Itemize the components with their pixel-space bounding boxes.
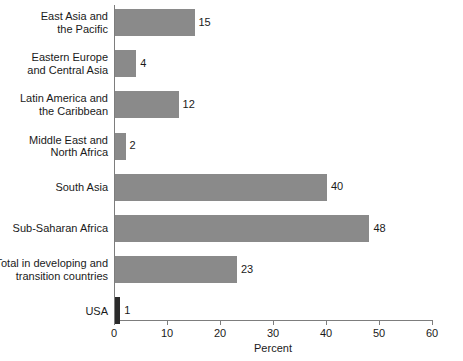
bar-value-label: 12: [183, 98, 195, 110]
x-axis-tick-label: 20: [200, 327, 240, 339]
category-label: East Asia and the Pacific: [0, 10, 108, 35]
x-axis-tick-label: 30: [253, 327, 293, 339]
bar: [115, 297, 120, 324]
bar-value-label: 40: [331, 180, 343, 192]
x-axis-tick: [273, 320, 274, 325]
bar-value-label: 4: [140, 57, 146, 69]
bar: [115, 215, 369, 242]
x-axis-tick: [167, 320, 168, 325]
x-axis-title: Percent: [114, 342, 432, 354]
bar-value-label: 2: [130, 139, 136, 151]
bar: [115, 133, 126, 160]
x-axis-tick: [220, 320, 221, 325]
bar-value-label: 48: [373, 222, 385, 234]
category-label: South Asia: [0, 181, 108, 194]
x-axis-tick-label: 60: [412, 327, 452, 339]
x-axis-tick: [379, 320, 380, 325]
bar-value-label: 23: [241, 263, 253, 275]
category-label: Eastern Europe and Central Asia: [0, 51, 108, 76]
bar: [115, 256, 237, 283]
x-axis-tick-label: 40: [306, 327, 346, 339]
bar: [115, 9, 195, 36]
x-axis-tick: [326, 320, 327, 325]
x-axis-tick-label: 0: [94, 327, 134, 339]
bar: [115, 174, 327, 201]
bar-value-label: 15: [199, 16, 211, 28]
x-axis-tick-label: 10: [147, 327, 187, 339]
category-label: Latin America and the Caribbean: [0, 92, 108, 117]
x-axis-tick: [432, 320, 433, 325]
x-axis-tick: [114, 320, 115, 325]
x-axis-tick-label: 50: [359, 327, 399, 339]
bar: [115, 91, 179, 118]
bar-chart: East Asia and the PacificEastern Europe …: [0, 0, 463, 361]
category-label: Total in developing and transition count…: [0, 257, 108, 282]
bar: [115, 50, 136, 77]
category-label: Sub-Saharan Africa: [0, 222, 108, 235]
category-label: USA: [0, 305, 108, 318]
category-label: Middle East and North Africa: [0, 134, 108, 159]
bar-value-label: 1: [124, 304, 130, 316]
